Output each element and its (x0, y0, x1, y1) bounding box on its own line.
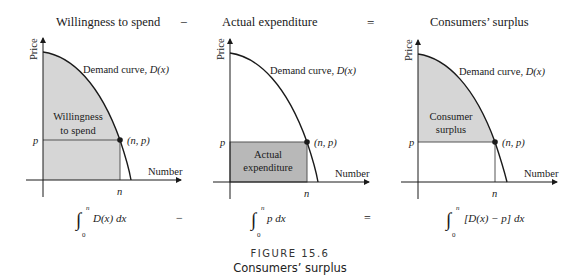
integral-upper-limit: n (456, 204, 460, 212)
panel-consumers-surplus: Price Number p n (n, p) Demand curve, D(… (401, 39, 559, 199)
integral-sign: ∫ (75, 209, 83, 232)
p-tick-label: p (408, 137, 414, 148)
integral-upper-limit: n (86, 204, 90, 212)
panel-actual-expenditure: Price Number p n (n, p) Demand curve, D(… (213, 38, 370, 199)
integrand: D(x) dx (92, 212, 126, 225)
equilibrium-point (304, 139, 310, 145)
region-label: Willingness (53, 111, 103, 122)
integral-lower-limit: 0 (82, 231, 86, 239)
equilibrium-point (492, 139, 498, 145)
demand-curve-label: Demand curve, D(x) (459, 66, 546, 78)
region-label: Actual (254, 149, 282, 160)
p-tick-label: p (32, 135, 38, 146)
point-label: (n, p) (502, 137, 525, 149)
integral-sign: ∫ (445, 209, 453, 232)
formula-willingness: ∫ n 0 D(x) dx (75, 204, 126, 239)
panel-willingness-to-spend: Price Number p n (n, p) Demand curve, D(… (26, 38, 183, 197)
n-tick-label: n (304, 188, 309, 199)
integrand: [D(x) − p] dx (464, 212, 524, 225)
formula-equals-operator: = (364, 211, 371, 225)
n-tick-label: n (492, 188, 497, 199)
integral-sign: ∫ (250, 209, 258, 232)
y-axis-label: Price (403, 39, 414, 61)
figure-number: FIGURE 15.6 (0, 248, 580, 259)
region-label: Consumer (429, 111, 473, 122)
x-axis-label: Number (524, 168, 559, 179)
integrand: p dx (266, 212, 286, 224)
consumers-surplus-diagram: Price Number p n (n, p) Demand curve, D(… (0, 0, 580, 277)
region-label: expenditure (243, 162, 293, 173)
integral-lower-limit: 0 (452, 231, 456, 239)
formula-minus-operator: − (176, 211, 183, 225)
integral-upper-limit: n (261, 204, 265, 212)
point-label: (n, p) (127, 135, 150, 147)
formula-expenditure: ∫ n 0 p dx (250, 204, 286, 239)
demand-curve-label: Demand curve, D(x) (270, 65, 357, 77)
figure-title: Consumers’ surplus (0, 261, 580, 275)
y-axis-label: Price (28, 38, 39, 60)
p-tick-label: p (219, 137, 225, 148)
point-label: (n, p) (314, 137, 337, 149)
x-axis-label: Number (148, 166, 183, 177)
equilibrium-point (117, 137, 123, 143)
formula-surplus: ∫ n 0 [D(x) − p] dx (445, 204, 524, 239)
y-axis-label: Price (215, 38, 226, 60)
region-label: to spend (60, 125, 96, 136)
region-label: surplus (436, 124, 466, 135)
integral-lower-limit: 0 (257, 231, 261, 239)
n-tick-label: n (117, 186, 122, 197)
x-axis-label: Number (335, 168, 370, 179)
demand-curve-label: Demand curve, D(x) (83, 64, 170, 76)
